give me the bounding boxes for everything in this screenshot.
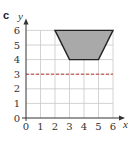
y-tick-label: 5 xyxy=(14,40,20,51)
x-tick-label: 5 xyxy=(95,121,101,132)
x-tick-label: 4 xyxy=(81,121,87,132)
trapezoid-shape xyxy=(55,30,113,59)
coordinate-grid-chart: 01234560123456 x y xyxy=(0,0,135,145)
y-tick-label: 4 xyxy=(14,54,20,65)
y-tick-label: 6 xyxy=(14,25,20,36)
y-tick-label: 2 xyxy=(14,83,20,94)
trapezoid-polygon xyxy=(55,30,113,59)
x-tick-label: 0 xyxy=(23,121,29,132)
x-tick-label: 1 xyxy=(37,121,43,132)
y-tick-label: 3 xyxy=(14,69,20,80)
y-axis-label: y xyxy=(17,10,23,22)
y-tick-label: 1 xyxy=(14,98,20,109)
x-axis-label: x xyxy=(122,118,128,130)
x-tick-label: 3 xyxy=(66,121,72,132)
y-tick-label: 0 xyxy=(14,113,20,124)
x-tick-label: 2 xyxy=(52,121,58,132)
y-axis-arrow-icon xyxy=(24,18,29,24)
x-tick-label: 6 xyxy=(110,121,116,132)
